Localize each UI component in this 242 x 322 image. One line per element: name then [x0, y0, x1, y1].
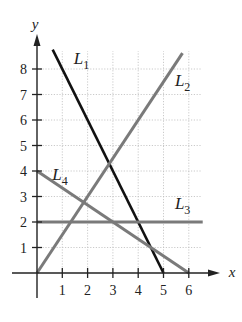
line-l2 [37, 53, 182, 273]
y-tick-label: 7 [20, 88, 27, 103]
y-tick-label: 2 [20, 215, 27, 230]
line-l1 [53, 50, 164, 273]
y-axis-label: y [30, 16, 39, 32]
x-tick-label: 1 [59, 283, 66, 298]
label-l1: L1 [73, 49, 89, 72]
x-tick-label: 4 [135, 283, 142, 298]
x-axis-arrow-icon [208, 270, 220, 277]
x-tick-label: 6 [185, 283, 192, 298]
y-tick-label: 6 [20, 113, 27, 128]
label-l3: L3 [174, 194, 190, 217]
y-tick-label: 4 [20, 164, 27, 179]
x-tick-label: 3 [109, 283, 116, 298]
x-tick-label: 2 [84, 283, 91, 298]
y-tick-label: 1 [20, 241, 27, 256]
x-tick-label: 5 [160, 283, 167, 298]
y-tick-label: 8 [20, 62, 27, 77]
label-l2: L2 [174, 71, 190, 94]
x-axis-label: x [228, 264, 236, 280]
y-tick-label: 5 [20, 139, 27, 154]
line-graph: 12345612345678xyL1L2L3L4 [0, 0, 242, 322]
labels: 12345612345678xyL1L2L3L4 [20, 16, 236, 298]
y-tick-label: 3 [20, 190, 27, 205]
y-axis-arrow-icon [34, 34, 41, 46]
